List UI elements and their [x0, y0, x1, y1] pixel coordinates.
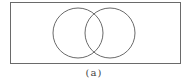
- set-b-circle: [85, 8, 135, 58]
- universal-set-rectangle: [11, 3, 181, 64]
- figure-caption: (a): [0, 67, 188, 78]
- set-a-circle: [53, 8, 103, 58]
